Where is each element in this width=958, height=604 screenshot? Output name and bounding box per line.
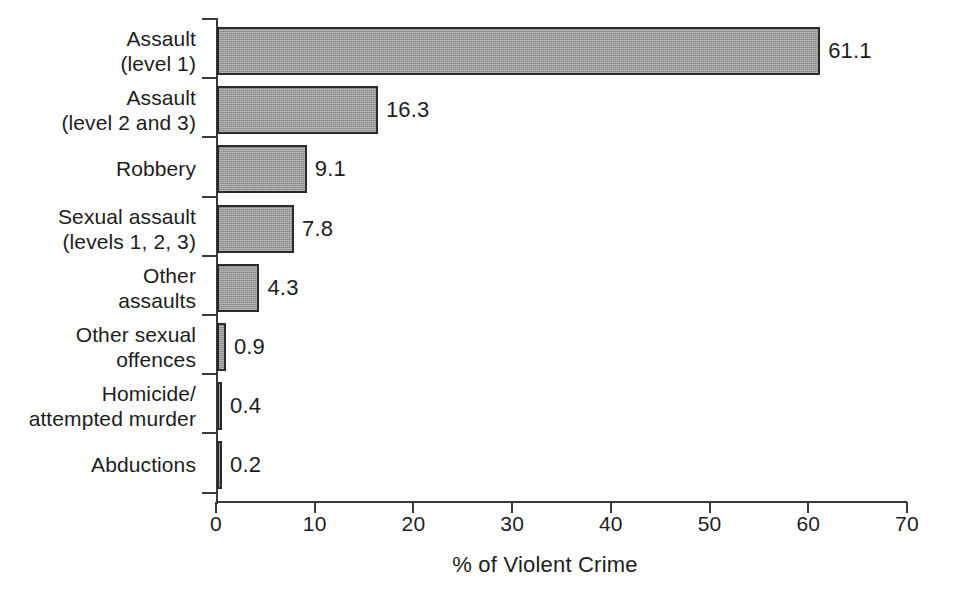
x-axis-tick-label: 40 (581, 512, 641, 536)
category-label-line: (level 2 and 3) (61, 110, 196, 135)
x-axis-title: % of Violent Crime (0, 552, 958, 578)
category-label-line: Abductions (91, 452, 196, 477)
bar (217, 441, 222, 489)
category-label: Abductions (91, 452, 196, 477)
category-label-line: Assault (120, 26, 196, 51)
bar-value-label: 4.3 (267, 275, 298, 301)
bar (217, 27, 820, 75)
x-axis-line (216, 501, 907, 503)
category-label-line: Other sexual (76, 322, 196, 347)
x-axis-tick-label: 60 (778, 512, 838, 536)
bar-chart: 010203040506070 61.1Assault(level 1)16.3… (0, 0, 958, 604)
x-axis-tick-label: 10 (285, 512, 345, 536)
category-label: Robbery (116, 156, 196, 181)
bar (217, 264, 259, 312)
y-axis-tick (202, 136, 216, 138)
y-axis-tick (202, 77, 216, 79)
y-axis-tick (202, 18, 216, 20)
y-axis-tick (202, 432, 216, 434)
category-label: Homicide/attempted murder (29, 381, 196, 431)
y-axis-tick (202, 492, 216, 494)
category-label-line: attempted murder (29, 406, 196, 431)
category-label: Otherassaults (118, 263, 196, 313)
category-label-line: Homicide/ (29, 381, 196, 406)
category-label: Assault(level 1) (120, 26, 196, 76)
bar (217, 86, 378, 134)
y-axis-tick (202, 255, 216, 257)
bar-value-label: 61.1 (828, 38, 872, 64)
x-axis-tick-label: 70 (877, 512, 937, 536)
y-axis-tick (202, 196, 216, 198)
bar-value-label: 0.4 (230, 393, 261, 419)
x-axis-tick-label: 0 (186, 512, 246, 536)
bar-value-label: 16.3 (386, 97, 430, 123)
category-label: Other sexualoffences (76, 322, 196, 372)
category-label-line: Sexual assault (58, 204, 196, 229)
bar-value-label: 0.2 (230, 452, 261, 478)
category-label: Sexual assault(levels 1, 2, 3) (58, 204, 196, 254)
x-axis-tick-label: 50 (680, 512, 740, 536)
category-label-line: offences (76, 347, 196, 372)
category-label-line: (levels 1, 2, 3) (58, 229, 196, 254)
category-label-line: assaults (118, 288, 196, 313)
bar (217, 323, 226, 371)
category-label: Assault(level 2 and 3) (61, 85, 196, 135)
bar (217, 205, 294, 253)
category-label-line: (level 1) (120, 51, 196, 76)
bar (217, 382, 222, 430)
x-axis-tick-label: 20 (383, 512, 443, 536)
y-axis-tick (202, 373, 216, 375)
category-label-line: Assault (61, 85, 196, 110)
bar-value-label: 9.1 (315, 156, 346, 182)
y-axis-tick (202, 314, 216, 316)
bar-value-label: 7.8 (302, 216, 333, 242)
category-label-line: Robbery (116, 156, 196, 181)
bar-value-label: 0.9 (234, 334, 265, 360)
category-label-line: Other (118, 263, 196, 288)
x-axis-tick-label: 30 (482, 512, 542, 536)
bar (217, 145, 307, 193)
